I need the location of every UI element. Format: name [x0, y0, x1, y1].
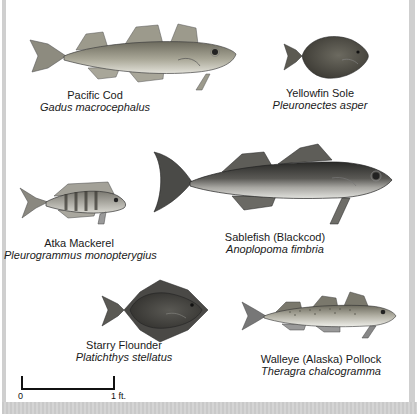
yellowfin-sole-scientific-name: Pleuronectes asper [250, 99, 390, 111]
walleye-pollock-label: Walleye (Alaska) Pollock Theragra chalco… [236, 353, 406, 377]
pacific-cod-common-name: Pacific Cod [20, 89, 170, 101]
walleye-pollock-illustration [240, 290, 400, 342]
pacific-cod-label: Pacific Cod Gadus macrocephalus [20, 89, 170, 113]
walleye-pollock-scientific-name: Theragra chalcogramma [236, 365, 406, 377]
frame-bottom-border [2, 402, 417, 414]
starry-flounder-common-name: Starry Flounder [54, 339, 194, 351]
scale-bar-start-label: 0 [18, 391, 23, 401]
yellowfin-sole-common-name: Yellowfin Sole [250, 87, 390, 99]
pacific-cod-illustration [28, 22, 243, 97]
starry-flounder-illustration [100, 278, 210, 348]
sablefish-label: Sablefish (Blackcod) Anoplopoma fimbria [200, 231, 350, 255]
atka-mackerel-common-name: Atka Mackerel [4, 237, 154, 249]
sablefish-illustration [152, 140, 402, 235]
frame-left-border [2, 0, 6, 404]
starry-flounder-label: Starry Flounder Platichthys stellatus [54, 339, 194, 363]
scale-bar-end-label: 1 ft. [111, 391, 126, 401]
pacific-cod-scientific-name: Gadus macrocephalus [20, 101, 170, 113]
yellowfin-sole-illustration [282, 30, 372, 82]
walleye-pollock-common-name: Walleye (Alaska) Pollock [236, 353, 406, 365]
sablefish-common-name: Sablefish (Blackcod) [200, 231, 350, 243]
starry-flounder-scientific-name: Platichthys stellatus [54, 351, 194, 363]
sablefish-scientific-name: Anoplopoma fimbria [200, 243, 350, 255]
atka-mackerel-label: Atka Mackerel Pleurogrammus monopterygiu… [4, 237, 154, 261]
yellowfin-sole-label: Yellowfin Sole Pleuronectes asper [250, 87, 390, 111]
scale-bar-line [21, 388, 115, 390]
frame-right-border [409, 0, 415, 404]
atka-mackerel-illustration [18, 180, 130, 226]
atka-mackerel-scientific-name: Pleurogrammus monopterygius [4, 249, 154, 261]
